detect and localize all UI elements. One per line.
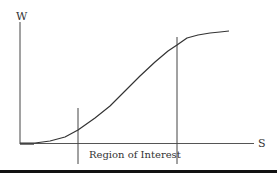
sigmoid-curve [20, 31, 229, 143]
y-axis-label: W [16, 10, 28, 23]
chart: W S Region of Interest [0, 0, 277, 173]
region-of-interest-label: Region of Interest [89, 149, 181, 160]
bottom-border-bar [0, 170, 277, 173]
x-axis-label: S [258, 137, 266, 150]
